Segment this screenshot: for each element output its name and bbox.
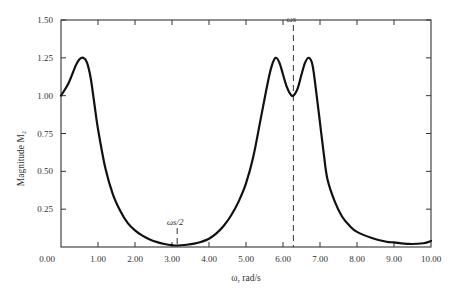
x-tick-label: 0.00 bbox=[39, 254, 55, 264]
x-tick-label: 3.00 bbox=[164, 254, 180, 264]
x-tick-label: 1.00 bbox=[90, 254, 106, 264]
magnitude-curve bbox=[61, 58, 431, 246]
x-tick-label: 6.00 bbox=[275, 254, 291, 264]
y-tick-label: 1.50 bbox=[37, 15, 53, 25]
y-tick-label: 0.75 bbox=[37, 129, 53, 139]
y-tick-label: 0.50 bbox=[37, 166, 53, 176]
x-tick-label: 8.00 bbox=[349, 254, 365, 264]
plot-frame bbox=[61, 20, 431, 247]
x-tick-label: 2.00 bbox=[127, 254, 143, 264]
annotation-label: ωs/2 bbox=[167, 217, 184, 227]
x-tick-label: 10.00 bbox=[421, 254, 442, 264]
x-tick-label: 9.00 bbox=[386, 254, 402, 264]
annotations: ωs/2ωs bbox=[167, 14, 297, 247]
y-axis-title: Magnitude M₂ bbox=[16, 131, 26, 186]
y-tick-label: 0.25 bbox=[37, 204, 53, 214]
x-tick-label: 4.00 bbox=[201, 254, 217, 264]
y-tick-label: 1.25 bbox=[37, 53, 53, 63]
x-tick-label: 5.00 bbox=[238, 254, 254, 264]
x-axis-title: ω, rad/s bbox=[231, 273, 261, 283]
y-tick-label: 1.00 bbox=[37, 91, 53, 101]
plot-border bbox=[61, 20, 431, 247]
magnitude-chart: 0.250.500.751.001.251.50 0.001.002.003.0… bbox=[0, 0, 461, 297]
x-tick-label: 7.00 bbox=[312, 254, 328, 264]
annotation-label: ωs bbox=[286, 14, 296, 24]
